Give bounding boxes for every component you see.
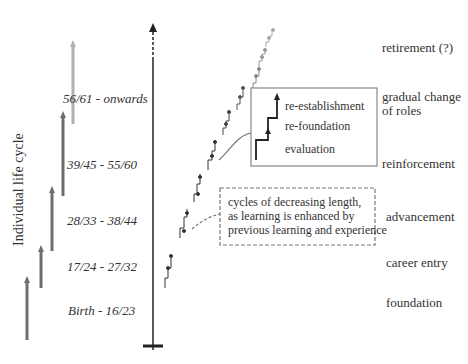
age-range-label: 28/33 - 38/44 [67, 213, 137, 229]
age-range-label: 17/24 - 27/32 [67, 259, 137, 275]
age-range-label: 56/61 - onwards [63, 91, 148, 107]
phase-label-advancement: advancement [386, 210, 455, 224]
cycle-note-line: cycles of decreasing length, [228, 195, 387, 209]
phase-label-foundation: foundation [386, 296, 442, 310]
cycle-note: cycles of decreasing length, as learning… [228, 195, 387, 237]
cycle-note-line: previous learning and experience [228, 223, 387, 237]
phase-label-career-entry: career entry [386, 256, 448, 270]
life-cycle-arrows [24, 40, 76, 340]
inset-label-evaluation: evaluation [285, 142, 335, 157]
life-cycle-axis-label: Individual life cycle [11, 133, 27, 246]
phase-label-gradual-change: gradual change of roles [382, 90, 468, 118]
cycle-note-line: as learning is enhanced by [228, 209, 387, 223]
age-range-label: 39/45 - 55/60 [67, 157, 137, 173]
timeline-axis [143, 23, 163, 350]
age-range-label: Birth - 16/23 [68, 303, 135, 319]
inset-label-re-foundation: re-foundation [285, 119, 350, 134]
phase-label-reinforcement: reinforcement [382, 157, 455, 171]
phase-label-retirement: retirement (?) [382, 41, 453, 55]
inset-label-re-establishment: re-establishment [285, 99, 364, 114]
